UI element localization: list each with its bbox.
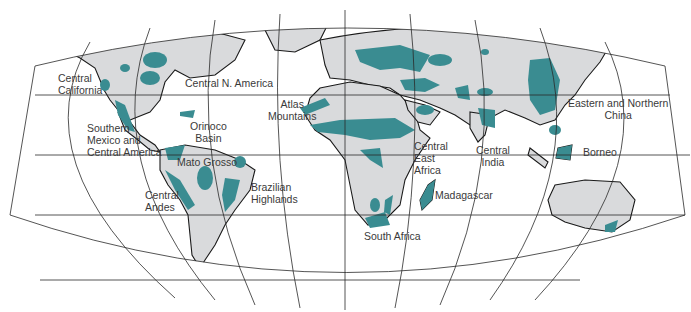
label-central-east-africa: Central East Africa — [414, 140, 448, 176]
label-orinoco-basin: Orinoco Basin — [190, 120, 227, 144]
label-brazilian-highlands: Brazilian Highlands — [251, 181, 298, 205]
label-eastern-northern-china: Eastern and Northern China — [568, 97, 668, 121]
label-borneo: Borneo — [583, 146, 617, 158]
label-central-n-america: Central N. America — [185, 77, 273, 89]
antarctica — [190, 282, 550, 312]
label-mato-grosso: Mato Grosso — [177, 156, 237, 168]
australia — [548, 180, 635, 232]
label-central-andes: Central Andes — [145, 189, 179, 213]
label-madagascar: Madagascar — [435, 189, 493, 201]
label-central-india: Central India — [476, 144, 510, 168]
label-southern-mexico: Southern Mexico and Central America — [87, 122, 162, 158]
label-atlas-mountains: Atlas Mountains — [268, 98, 316, 122]
sumatra — [528, 148, 548, 168]
new-zealand — [625, 238, 660, 255]
greenland — [265, 19, 330, 52]
label-central-california: Central California — [58, 72, 102, 96]
label-south-africa: South Africa — [364, 230, 421, 242]
